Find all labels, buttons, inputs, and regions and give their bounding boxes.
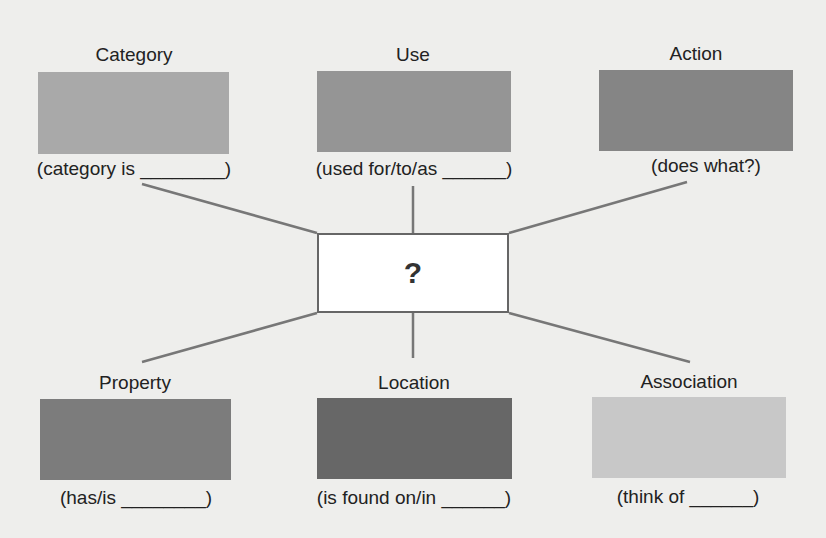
use-box — [317, 71, 511, 152]
association-title: Association — [589, 371, 789, 393]
location-prompt: (is found on/in ______) — [294, 487, 534, 509]
location-title: Location — [314, 372, 514, 394]
use-title: Use — [313, 44, 513, 66]
category-box — [38, 72, 229, 154]
property-prompt: (has/is ________) — [16, 487, 256, 509]
association-box — [592, 397, 786, 478]
association-prompt: (think of ______) — [568, 486, 808, 508]
action-box — [599, 70, 793, 151]
action-prompt: (does what?) — [586, 155, 826, 177]
action-title: Action — [596, 43, 796, 65]
property-box — [40, 399, 231, 480]
category-title: Category — [34, 44, 234, 66]
center-node: ? — [317, 233, 509, 313]
property-title: Property — [35, 372, 235, 394]
use-prompt: (used for/to/as ______) — [294, 158, 534, 180]
location-box — [317, 398, 512, 479]
category-prompt: (category is ________) — [14, 158, 254, 180]
